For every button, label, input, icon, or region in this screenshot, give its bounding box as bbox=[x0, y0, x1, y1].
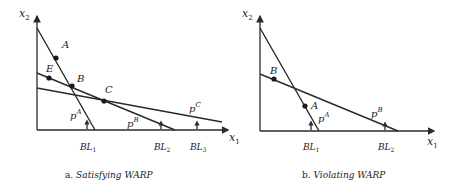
point-A bbox=[53, 55, 58, 60]
panel-b-violating-warp: x2 x1 pA pB BL1 BL2 B A b. Violating WAR… bbox=[242, 7, 438, 180]
y-axis-label: x2 bbox=[242, 7, 253, 22]
x-axis-label: x1 bbox=[229, 131, 240, 146]
point-A-label: A bbox=[61, 39, 69, 50]
panel-a-satisfying-warp: x2 x1 pA pB pC BL1 BL2 BL3 A E B C a. Sa… bbox=[19, 7, 240, 180]
bl2-label: BL2 bbox=[153, 142, 171, 153]
bl2-label: BL2 bbox=[377, 142, 395, 153]
point-A-label: A bbox=[310, 100, 318, 111]
bl1-label: BL1 bbox=[79, 142, 96, 153]
bl1-label: BL1 bbox=[302, 142, 319, 153]
point-B-label: B bbox=[76, 73, 84, 84]
caption-b: b. Violating WARP bbox=[302, 170, 386, 180]
point-E bbox=[46, 75, 51, 80]
price-label-pB: pB bbox=[127, 116, 139, 129]
price-label-pA: pA bbox=[70, 108, 81, 121]
y-axis-label: x2 bbox=[19, 7, 30, 22]
point-B bbox=[69, 83, 74, 88]
budget-line-pB bbox=[260, 74, 398, 131]
price-label-pB: pB bbox=[371, 106, 383, 119]
price-label-pC: pC bbox=[189, 101, 201, 114]
x-axis-label: x1 bbox=[427, 135, 438, 150]
point-C bbox=[101, 98, 106, 103]
point-E-label: E bbox=[45, 63, 54, 74]
bl3-label: BL3 bbox=[189, 142, 207, 153]
point-B bbox=[271, 76, 276, 81]
point-C-label: C bbox=[105, 84, 113, 95]
caption-a: a. Satisfying WARP bbox=[65, 170, 154, 180]
price-label-pA: pA bbox=[318, 111, 329, 124]
budget-line-pA bbox=[260, 28, 319, 131]
point-A bbox=[302, 103, 307, 108]
warp-diagram: x2 x1 pA pB pC BL1 BL2 BL3 A E B C a. Sa… bbox=[0, 0, 452, 196]
point-B-label: B bbox=[269, 65, 277, 76]
